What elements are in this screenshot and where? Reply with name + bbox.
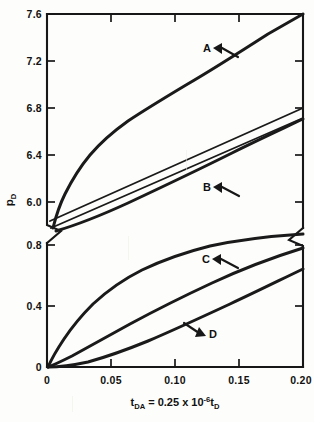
scan-artifact-1 xyxy=(128,236,129,260)
x-ticklabel-0: 0 xyxy=(44,374,50,386)
annotation-d: D xyxy=(184,323,217,340)
annotation-b-label: B xyxy=(203,181,211,193)
y-ticklabels-upper: 7.6 7.2 6.8 6.4 6.0 xyxy=(27,8,43,208)
x-axis-title-eq: = 0.25 x 10 xyxy=(145,396,203,408)
y-ticklabel-6-4: 6.4 xyxy=(27,149,43,161)
y-ticklabel-0-8: 0.8 xyxy=(27,239,43,251)
y-axis-title-sub: D xyxy=(9,193,18,199)
annotation-c-label: C xyxy=(202,253,210,265)
scan-artifact-3 xyxy=(72,396,73,412)
x-ticklabel-0-05: 0.05 xyxy=(100,374,122,386)
y-ticklabel-6-0: 6.0 xyxy=(27,196,43,208)
x-ticklabels: 0 0.05 0.10 0.15 0.20 xyxy=(44,374,312,386)
x-axis-title-sub1: DA xyxy=(134,402,145,411)
y-ticklabels-lower: 0.8 0.4 0 xyxy=(27,239,43,373)
y-ticklabel-0-4: 0.4 xyxy=(27,300,43,312)
annotation-b: B xyxy=(203,181,239,196)
x-ticklabel-0-15: 0.15 xyxy=(228,374,250,386)
svg-text:pD: pD xyxy=(3,193,18,206)
chart-svg: 7.6 7.2 6.8 6.4 6.0 0.8 0.4 0 0 0.05 0.1… xyxy=(0,0,314,422)
y-ticklabel-7-2: 7.2 xyxy=(27,55,43,67)
annotation-d-label: D xyxy=(209,328,217,340)
scan-artifact-2 xyxy=(186,150,187,170)
annotation-c: C xyxy=(202,253,238,268)
y-ticklabel-6-8: 6.8 xyxy=(27,102,43,114)
curve-d-lowest xyxy=(48,269,303,367)
curve-a xyxy=(53,14,303,228)
x-axis-title-sub2: D xyxy=(214,402,220,411)
y-axis-title: pD xyxy=(3,193,18,206)
x-axis-title: tDA = 0.25 x 10-6tD xyxy=(131,395,221,411)
x-axis-title-exp: -6 xyxy=(204,395,211,404)
x-ticklabel-0-20: 0.20 xyxy=(290,374,312,386)
x-ticklabel-0-10: 0.10 xyxy=(164,374,186,386)
curve-upper-straight-1 xyxy=(50,108,303,221)
curve-b xyxy=(56,119,303,231)
y-axis-title-main: p xyxy=(3,199,15,206)
curve-d xyxy=(48,248,303,367)
y-ticklabel-0: 0 xyxy=(36,361,42,373)
figure-root: 7.6 7.2 6.8 6.4 6.0 0.8 0.4 0 0 0.05 0.1… xyxy=(0,0,314,422)
annotation-a: A xyxy=(203,42,238,57)
annotation-a-label: A xyxy=(203,42,211,54)
curve-upper-straight-2 xyxy=(51,118,303,228)
y-ticklabel-7-6: 7.6 xyxy=(27,8,43,20)
